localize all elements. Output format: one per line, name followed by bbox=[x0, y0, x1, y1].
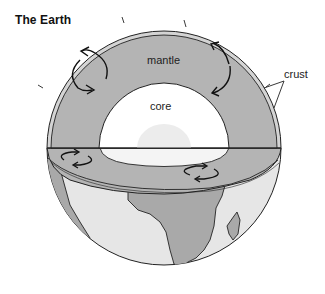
mantle-label: mantle bbox=[147, 54, 180, 66]
core-label: core bbox=[150, 100, 171, 112]
crust-label: crust bbox=[284, 68, 308, 80]
upper-cutaway bbox=[38, 17, 281, 148]
earth-diagram: mantle core crust bbox=[0, 0, 325, 294]
